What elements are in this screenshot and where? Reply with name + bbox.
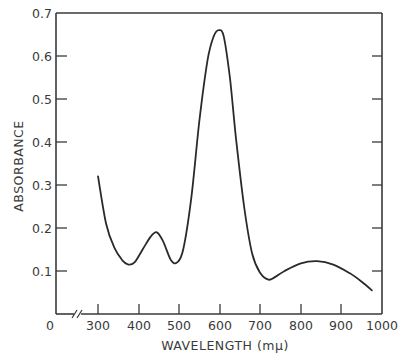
- y-axis-title: ABSORBANCE: [11, 120, 26, 211]
- y-tick-labels: 0.7 0.6 0.5 0.4 0.3 0.2 0.1: [32, 6, 52, 279]
- y-tick-0.4: 0.4: [32, 135, 52, 150]
- y-ticks-right: [372, 56, 382, 271]
- x-tick-400: 400: [127, 318, 151, 333]
- x-tick-600: 600: [208, 318, 232, 333]
- x-tick-700: 700: [248, 318, 272, 333]
- plot-frame: [56, 13, 382, 314]
- y-tick-0.6: 0.6: [32, 49, 52, 64]
- x-axis-title: WAVELENGTH (mμ): [161, 338, 289, 353]
- y-tick-0.5: 0.5: [32, 92, 52, 107]
- x-tick-800: 800: [289, 318, 313, 333]
- x-tick-labels: 0 300 400 500 600 700 800 900 1000: [46, 318, 398, 333]
- y-tick-0.3: 0.3: [32, 178, 52, 193]
- y-tick-0.7: 0.7: [32, 6, 52, 21]
- x-tick-500: 500: [167, 318, 191, 333]
- x-tick-300: 300: [86, 318, 110, 333]
- x-ticks: [98, 304, 341, 314]
- y-tick-0.2: 0.2: [32, 221, 52, 236]
- y-ticks-left: [56, 56, 67, 271]
- x-tick-1000: 1000: [366, 318, 398, 333]
- absorbance-chart: 0.7 0.6 0.5 0.4 0.3 0.2 0.1 0 300 400 50…: [0, 0, 404, 360]
- x-tick-900: 900: [329, 318, 353, 333]
- absorbance-curve: [98, 30, 372, 290]
- y-tick-0.1: 0.1: [32, 264, 52, 279]
- x-tick-0: 0: [46, 318, 54, 333]
